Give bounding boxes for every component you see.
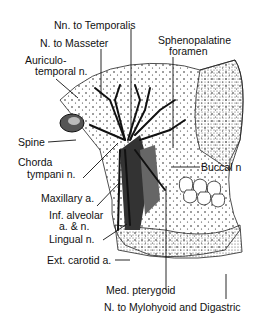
- label-buccal-n: Buccal n: [201, 162, 241, 173]
- label-lingual-n: Lingual n.: [49, 234, 95, 245]
- label-nn-to-temporalis: Nn. to Temporalis: [54, 20, 136, 31]
- label-maxillary-a: Maxillary a.: [41, 193, 94, 204]
- label-n-to-mylohyoid: N. to Mylohyoid and Digastric: [104, 302, 241, 313]
- label-auriculotemporal-2: temporal n.: [35, 66, 88, 77]
- label-chorda-2: tympani n.: [27, 169, 75, 180]
- label-med-pterygoid: Med. pterygoid: [106, 285, 175, 296]
- label-chorda-1: Chorda: [18, 157, 52, 168]
- label-inf-alveolar-2: a. & n.: [59, 221, 89, 232]
- label-spine: Spine: [18, 137, 45, 148]
- label-n-to-masseter: N. to Masseter: [40, 38, 108, 49]
- label-sphenopalatine-2: foramen: [169, 46, 208, 57]
- label-ext-carotid-a: Ext. carotid a.: [47, 255, 111, 266]
